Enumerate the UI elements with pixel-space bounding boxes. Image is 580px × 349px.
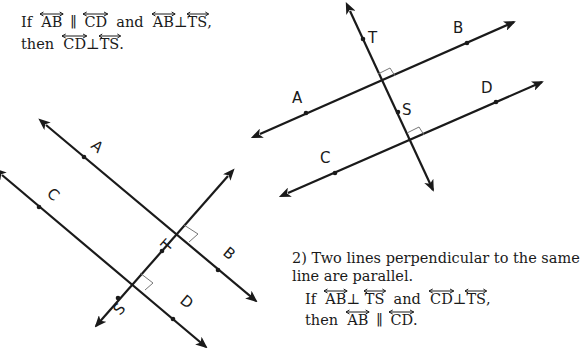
point-c [37, 205, 42, 210]
line-cd [2, 175, 206, 347]
label-d: D [176, 291, 196, 312]
point-t [361, 37, 366, 42]
point-d [494, 100, 499, 105]
labels-right: A B C D T S [292, 19, 493, 167]
label-d: D [481, 79, 493, 97]
point-c [333, 171, 338, 176]
point-s [396, 110, 401, 115]
figure-left [2, 125, 256, 347]
label-s: S [402, 101, 412, 119]
label-a: A [87, 136, 107, 157]
label-s: S [109, 300, 129, 319]
label-c: C [43, 184, 63, 205]
line-cd [288, 82, 542, 193]
label-t: T [367, 29, 378, 47]
point-d [171, 317, 176, 322]
right-angle-marks-left [140, 225, 198, 290]
point-a [304, 111, 309, 116]
figure-right [260, 11, 542, 193]
point-s [116, 296, 121, 301]
label-c: C [320, 149, 330, 167]
point-a [82, 155, 87, 160]
point-b [465, 41, 470, 46]
points-right [304, 37, 499, 176]
line-ab [260, 22, 514, 134]
point-b [216, 268, 221, 273]
right-angle-icon [140, 273, 153, 290]
line-ab [46, 125, 256, 301]
label-b: B [219, 243, 238, 263]
label-a: A [292, 89, 303, 107]
label-b: B [453, 19, 463, 37]
right-angle-icon [184, 225, 198, 242]
